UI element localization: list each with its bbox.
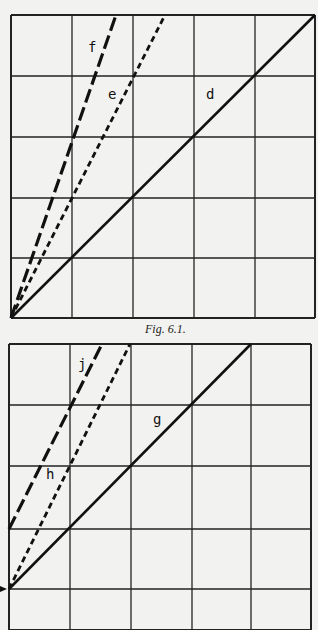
fig2-graph: jhg <box>9 344 311 630</box>
line-label-e: e <box>108 86 116 102</box>
line-label-f: f <box>88 39 96 55</box>
figure-caption: Fig. 6.1. <box>145 322 186 337</box>
line-label-h: h <box>46 466 54 482</box>
line-label-d: d <box>206 86 214 102</box>
origin-arrow-icon <box>0 586 7 592</box>
line-f <box>11 15 116 318</box>
line-d <box>11 15 315 318</box>
figure-canvas: fedjhg <box>0 0 318 630</box>
fig1-graph: fed <box>11 15 315 318</box>
line-j <box>9 344 102 529</box>
line-label-g: g <box>153 411 161 427</box>
line-e <box>11 15 165 318</box>
line-label-j: j <box>78 356 86 372</box>
